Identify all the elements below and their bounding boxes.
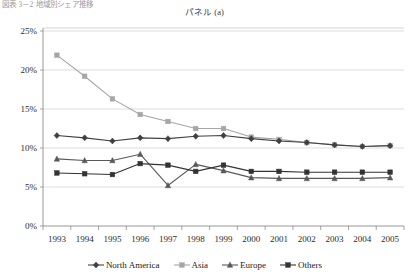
legend-marker-icon	[87, 260, 105, 270]
x-axis-tick-label: 2000	[242, 234, 261, 244]
legend-item[interactable]: Others	[279, 260, 322, 270]
legend-marker-icon	[173, 260, 191, 270]
data-point-marker	[82, 135, 88, 141]
data-point-marker	[110, 172, 115, 177]
x-axis-tick-label: 2005	[381, 234, 400, 244]
chart-series	[54, 151, 393, 187]
data-point-marker	[165, 136, 171, 142]
line-chart: 0%5%10%15%20%25%199319941995199619971998…	[0, 0, 409, 274]
data-point-marker	[221, 126, 226, 131]
chart-legend: North AmericaAsiaEuropeOthers	[0, 260, 409, 270]
data-point-marker	[193, 133, 199, 139]
x-axis-tick-label: 2004	[353, 234, 372, 244]
data-point-marker	[277, 169, 282, 174]
data-point-marker	[138, 112, 143, 117]
data-point-marker	[55, 171, 60, 176]
data-point-marker	[82, 74, 87, 79]
legend-item-label: Others	[298, 261, 322, 270]
x-axis-tick-label: 1996	[131, 234, 150, 244]
data-point-marker	[388, 170, 393, 175]
legend-item[interactable]: Europe	[221, 260, 266, 270]
data-point-marker	[221, 163, 226, 168]
y-axis-tick-label: 0%	[25, 221, 38, 231]
data-point-marker	[305, 170, 310, 175]
data-point-marker	[166, 119, 171, 124]
data-point-marker	[110, 138, 116, 144]
x-axis-tick-label: 1994	[76, 234, 95, 244]
x-axis-tick-label: 1997	[159, 234, 178, 244]
legend-item-label: North America	[106, 261, 160, 270]
data-point-marker	[360, 170, 365, 175]
chart-plot-area: 0%5%10%15%20%25%199319941995199619971998…	[0, 0, 409, 274]
legend-item[interactable]: Asia	[173, 260, 209, 270]
legend-item-label: Europe	[240, 261, 266, 270]
data-point-marker	[221, 133, 227, 139]
data-point-marker	[93, 262, 99, 268]
data-point-marker	[332, 170, 337, 175]
x-axis-tick-label: 2002	[298, 234, 316, 244]
legend-marker-icon	[221, 260, 239, 270]
data-point-marker	[286, 263, 291, 268]
data-point-marker	[179, 263, 184, 268]
x-axis-tick-label: 2001	[270, 234, 288, 244]
x-axis-tick-label: 2003	[326, 234, 345, 244]
y-axis-tick-label: 5%	[25, 182, 38, 192]
data-point-marker	[249, 169, 254, 174]
data-point-marker	[193, 126, 198, 131]
x-axis-tick-label: 1999	[215, 234, 234, 244]
data-point-marker	[138, 161, 143, 166]
data-point-marker	[166, 163, 171, 168]
data-point-marker	[55, 53, 60, 58]
data-point-marker	[54, 133, 60, 139]
data-point-marker	[137, 135, 143, 141]
legend-item-label: Asia	[192, 261, 209, 270]
chart-series	[54, 133, 393, 150]
legend-marker-icon	[279, 260, 297, 270]
y-axis-tick-label: 10%	[21, 143, 38, 153]
data-point-marker	[110, 97, 115, 102]
data-point-marker	[193, 161, 198, 166]
x-axis-tick-label: 1993	[48, 234, 67, 244]
x-axis-tick-label: 1998	[187, 234, 206, 244]
data-point-marker	[82, 171, 87, 176]
data-point-marker	[137, 151, 142, 156]
y-axis-tick-label: 20%	[21, 65, 38, 75]
x-axis-tick-label: 1995	[103, 234, 122, 244]
y-axis-tick-label: 15%	[21, 104, 38, 114]
y-axis-tick-label: 25%	[21, 26, 38, 36]
data-point-marker	[193, 169, 198, 174]
legend-item[interactable]: North America	[87, 260, 160, 270]
